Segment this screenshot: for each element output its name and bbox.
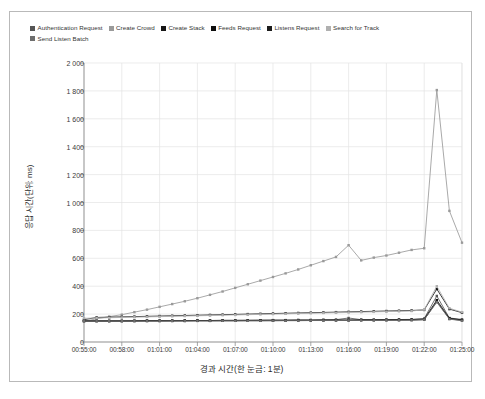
- data-point-marker: [221, 320, 223, 322]
- data-point-marker: [423, 247, 425, 249]
- data-point-marker: [184, 300, 186, 302]
- data-point-marker: [272, 319, 274, 321]
- data-point-marker: [398, 252, 400, 254]
- y-axis-tick-label: 200: [50, 311, 84, 318]
- y-axis-tick-label: 1 400: [50, 143, 84, 150]
- data-point-marker: [461, 311, 463, 313]
- data-point-marker: [373, 256, 375, 258]
- data-point-marker: [209, 314, 211, 316]
- data-point-marker: [196, 320, 198, 322]
- data-point-marker: [385, 310, 387, 312]
- y-axis-tick-label: 400: [50, 283, 84, 290]
- data-point-marker: [310, 319, 312, 321]
- data-point-marker: [158, 320, 160, 322]
- data-point-marker: [322, 319, 324, 321]
- data-point-marker: [373, 319, 375, 321]
- data-point-marker: [322, 312, 324, 314]
- data-point-marker: [209, 294, 211, 296]
- data-point-marker: [448, 307, 450, 309]
- data-point-marker: [247, 283, 249, 285]
- data-point-marker: [297, 312, 299, 314]
- data-point-marker: [410, 319, 412, 321]
- data-point-marker: [272, 313, 274, 315]
- data-point-marker: [209, 320, 211, 322]
- data-point-marker: [272, 276, 274, 278]
- data-point-marker: [196, 315, 198, 317]
- data-point-marker: [247, 313, 249, 315]
- data-point-marker: [385, 319, 387, 321]
- data-point-marker: [335, 256, 337, 258]
- data-point-marker: [284, 272, 286, 274]
- data-point-marker: [436, 301, 438, 303]
- data-point-marker: [108, 320, 110, 322]
- data-point-marker: [461, 320, 463, 322]
- y-axis-tick-label: 800: [50, 227, 84, 234]
- y-axis-tick-labels: 2 0001 8001 6001 4001 2001 0008006004002…: [32, 12, 84, 383]
- data-point-marker: [221, 290, 223, 292]
- data-point-marker: [360, 311, 362, 313]
- y-axis-tick-label: 1 800: [50, 87, 84, 94]
- data-point-marker: [448, 210, 450, 212]
- data-point-marker: [171, 320, 173, 322]
- y-axis-tick-label: 600: [50, 255, 84, 262]
- data-point-marker: [259, 313, 261, 315]
- y-axis-title: 응답 시간(단위: ms): [23, 132, 34, 262]
- data-point-marker: [360, 259, 362, 261]
- data-point-marker: [171, 315, 173, 317]
- data-point-marker: [410, 249, 412, 251]
- data-point-marker: [398, 310, 400, 312]
- data-point-marker: [335, 312, 337, 314]
- data-point-marker: [436, 89, 438, 91]
- data-point-marker: [310, 264, 312, 266]
- y-axis-tick-label: 1 200: [50, 171, 84, 178]
- data-point-marker: [133, 320, 135, 322]
- y-axis-tick-label: 1 600: [50, 115, 84, 122]
- data-point-marker: [322, 260, 324, 262]
- data-point-marker: [196, 297, 198, 299]
- data-point-marker: [234, 320, 236, 322]
- data-point-marker: [221, 314, 223, 316]
- data-point-marker: [234, 287, 236, 289]
- y-axis-tick-label: 2 000: [50, 60, 84, 67]
- data-point-marker: [297, 268, 299, 270]
- data-point-marker: [259, 320, 261, 322]
- data-point-marker: [284, 319, 286, 321]
- data-point-marker: [373, 311, 375, 313]
- data-point-marker: [234, 314, 236, 316]
- data-point-marker: [347, 244, 349, 246]
- data-point-marker: [423, 318, 425, 320]
- chart-card: Authentication RequestCreate CrowdCreate…: [9, 11, 472, 382]
- data-point-marker: [335, 319, 337, 321]
- data-point-marker: [121, 313, 123, 315]
- data-point-marker: [461, 241, 463, 243]
- y-axis-tick-label: 0: [50, 339, 84, 346]
- y-axis-tick-label: 1 000: [50, 199, 84, 206]
- data-point-marker: [184, 315, 186, 317]
- data-point-marker: [284, 313, 286, 315]
- data-point-marker: [247, 320, 249, 322]
- data-point-marker: [133, 316, 135, 318]
- data-point-marker: [146, 320, 148, 322]
- data-point-marker: [121, 316, 123, 318]
- data-point-marker: [347, 319, 349, 321]
- data-point-marker: [423, 308, 425, 310]
- data-point-marker: [347, 311, 349, 313]
- data-point-marker: [184, 320, 186, 322]
- data-point-marker: [133, 311, 135, 313]
- data-point-marker: [95, 317, 97, 319]
- data-point-marker: [436, 295, 438, 297]
- data-point-marker: [436, 285, 438, 287]
- data-point-marker: [310, 312, 312, 314]
- data-point-marker: [171, 303, 173, 305]
- x-axis-tick-label: 01:25:00: [436, 346, 485, 353]
- data-point-marker: [385, 254, 387, 256]
- plot-area-wrapper: 2 0001 8001 6001 4001 2001 0008006004002…: [10, 12, 473, 383]
- data-point-marker: [158, 306, 160, 308]
- data-point-marker: [297, 319, 299, 321]
- data-point-marker: [448, 318, 450, 320]
- data-point-marker: [108, 317, 110, 319]
- x-axis-tick-labels: 00:55:0000:58:0001:01:0001:04:0001:07:00…: [10, 346, 473, 360]
- data-point-marker: [146, 316, 148, 318]
- data-point-marker: [410, 310, 412, 312]
- data-point-marker: [121, 320, 123, 322]
